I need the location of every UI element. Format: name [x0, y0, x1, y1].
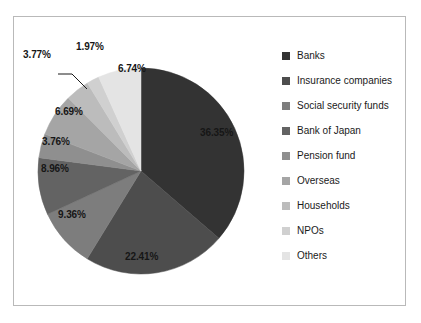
legend-swatch-icon: [282, 77, 290, 85]
slice-label-npos: 1.97%: [76, 41, 104, 52]
legend-swatch-icon: [282, 127, 290, 135]
pie-chart: 36.35% 22.41% 9.36% 8.96% 3.76% 6.69% 3.…: [14, 17, 276, 307]
legend-item-label: Overseas: [297, 176, 340, 186]
legend-item[interactable]: Pension fund: [282, 143, 406, 168]
legend-item-label: Bank of Japan: [297, 126, 361, 136]
chart-legend: BanksInsurance companiesSocial security …: [282, 43, 406, 268]
legend-item[interactable]: Social security funds: [282, 93, 406, 118]
legend-item-label: Others: [297, 251, 327, 261]
legend-item[interactable]: Overseas: [282, 168, 406, 193]
legend-swatch-icon: [282, 152, 290, 160]
legend-swatch-icon: [282, 252, 290, 260]
legend-item-label: Insurance companies: [297, 76, 392, 86]
legend-item-label: NPOs: [297, 226, 324, 236]
slice-label-insurance: 22.41%: [125, 251, 158, 262]
legend-swatch-icon: [282, 227, 290, 235]
slice-label-overseas: 6.69%: [55, 106, 83, 117]
legend-swatch-icon: [282, 102, 290, 110]
legend-item[interactable]: Banks: [282, 43, 406, 68]
legend-item-label: Pension fund: [297, 151, 355, 161]
legend-item-label: Banks: [297, 51, 325, 61]
slice-label-social-security: 9.36%: [58, 209, 86, 220]
chart-screenshot: 36.35% 22.41% 9.36% 8.96% 3.76% 6.69% 3.…: [0, 0, 421, 323]
legend-swatch-icon: [282, 202, 290, 210]
slice-label-pension: 3.76%: [42, 136, 70, 147]
legend-item-label: Social security funds: [297, 101, 389, 111]
legend-item[interactable]: Others: [282, 243, 406, 268]
slice-label-banks: 36.35%: [200, 127, 233, 138]
pie-svg: [14, 17, 276, 307]
legend-item[interactable]: Insurance companies: [282, 68, 406, 93]
legend-item[interactable]: NPOs: [282, 218, 406, 243]
legend-item[interactable]: Households: [282, 193, 406, 218]
legend-swatch-icon: [282, 177, 290, 185]
legend-item-label: Households: [297, 201, 350, 211]
slice-label-others: 6.74%: [118, 63, 146, 74]
legend-item[interactable]: Bank of Japan: [282, 118, 406, 143]
legend-swatch-icon: [282, 52, 290, 60]
chart-frame: 36.35% 22.41% 9.36% 8.96% 3.76% 6.69% 3.…: [13, 16, 406, 306]
slice-label-boj: 8.96%: [41, 163, 69, 174]
slice-label-households: 3.77%: [23, 49, 51, 60]
